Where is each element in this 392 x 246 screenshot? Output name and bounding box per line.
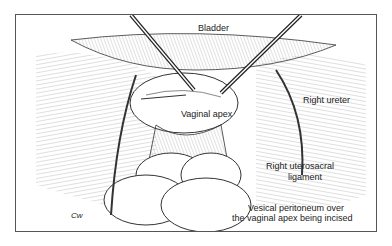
label-vesical-line1: Vesical peritoneum over <box>248 203 344 213</box>
artist-signature: Cw <box>71 211 83 221</box>
label-right-ureter: Right ureter <box>303 95 350 105</box>
label-bladder: Bladder <box>198 23 229 33</box>
label-right-uterosacral-line1: Right uterosacral <box>266 161 334 171</box>
label-vaginal-apex: Vaginal apex <box>181 109 232 119</box>
label-right-uterosacral-line2: ligament <box>288 172 322 182</box>
figure-frame: Bladder Vaginal apex Right ureter Right … <box>15 14 377 232</box>
anatomy-illustration <box>16 15 377 232</box>
label-vesical-line2: the vaginal apex being incised <box>232 213 353 223</box>
